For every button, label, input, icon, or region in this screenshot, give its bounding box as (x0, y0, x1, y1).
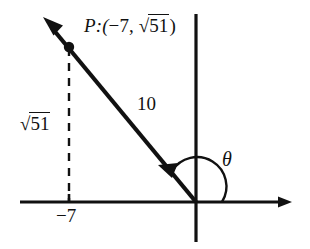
point-p-label-suffix: ) (169, 15, 175, 36)
angle-arc-path (172, 157, 226, 202)
vertical-leg-radical: √51 (20, 112, 50, 135)
point-p-y-radicand: 51 (148, 14, 169, 37)
point-p-label: P:(−7, √51) (84, 14, 176, 37)
terminal-ray-arrowhead-icon (43, 17, 63, 36)
point-p-label-prefix: P:( (84, 15, 109, 36)
terminal-ray-line (52, 28, 196, 202)
x-axis-arrowhead-icon (278, 197, 292, 208)
x-tick-label-minus-seven: −7 (56, 205, 76, 227)
point-p-marker (64, 42, 74, 52)
hypotenuse-label: 10 (137, 93, 156, 115)
trigonometry-diagram: P:(−7, √51) √51 10 θ −7 (0, 0, 310, 249)
vertical-leg-radicand: 51 (29, 112, 50, 135)
angle-theta-label: θ (222, 148, 232, 171)
point-p-comma: , (129, 15, 139, 36)
vertical-leg-label: √51 (20, 112, 50, 135)
point-p-y-radical: √51 (139, 14, 170, 37)
point-p-x-value: −7 (109, 15, 129, 36)
